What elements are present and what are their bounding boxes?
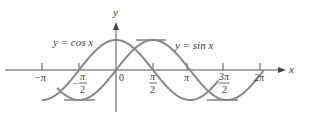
- svg-text:3π: 3π: [218, 71, 230, 82]
- x-axis-label: x: [288, 63, 294, 75]
- svg-text:2: 2: [80, 84, 85, 95]
- sin-cos-graph: y x 0 y = cos x y = sin x −π − π 2 π 2 π…: [0, 0, 309, 116]
- svg-text:2: 2: [150, 84, 155, 95]
- tick-label-two-pi: 2π: [254, 72, 265, 83]
- origin-label: 0: [119, 72, 124, 83]
- svg-text:−: −: [73, 78, 79, 89]
- x-axis-arrow-icon: [278, 67, 286, 73]
- cos-label: y = cos x: [52, 36, 93, 48]
- svg-text:π: π: [80, 71, 86, 82]
- tick-label-pi: π: [184, 72, 190, 83]
- y-axis-label: y: [112, 6, 118, 18]
- tick-label-three-half-pi: 3π 2: [218, 71, 230, 95]
- sin-label: y = sin x: [174, 39, 213, 51]
- y-axis-arrow-icon: [113, 22, 119, 30]
- tick-label-neg-pi: −π: [34, 72, 47, 83]
- svg-text:2: 2: [222, 84, 227, 95]
